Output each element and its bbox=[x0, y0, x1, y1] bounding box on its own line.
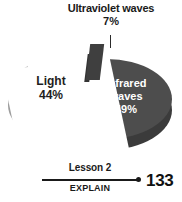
ultraviolet-callout-label: Ultraviolet waves 7% bbox=[41, 2, 181, 28]
page-number: 133 bbox=[146, 171, 173, 191]
infrared-percent-text: 49% bbox=[88, 103, 164, 116]
footer-rule bbox=[42, 179, 138, 181]
footer-bullet-icon bbox=[136, 177, 141, 182]
infrared-label-line2: waves bbox=[88, 90, 164, 103]
infrared-slice-label: Infrared waves 49% bbox=[88, 77, 164, 116]
section-label: EXPLAIN bbox=[50, 183, 130, 193]
light-label-text: Light bbox=[23, 75, 79, 89]
ultraviolet-label-text: Ultraviolet waves bbox=[41, 2, 181, 15]
light-percent-text: 44% bbox=[23, 89, 79, 103]
infrared-label-line1: Infrared bbox=[88, 77, 164, 90]
pie-chart-figure: Ultraviolet waves 7% Light 44% Infrared … bbox=[0, 0, 182, 202]
ultraviolet-percent-text: 7% bbox=[41, 15, 181, 28]
light-slice-label: Light 44% bbox=[23, 75, 79, 103]
lesson-label: Lesson 2 bbox=[50, 162, 130, 173]
page-footer: Lesson 2 EXPLAIN 133 bbox=[0, 162, 182, 202]
pie-stage: Light 44% Infrared waves 49% bbox=[0, 44, 182, 159]
